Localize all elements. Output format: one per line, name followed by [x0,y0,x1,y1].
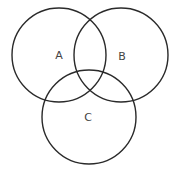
set-b-label: B [118,50,126,63]
set-a-label: A [55,49,63,62]
set-c-label: C [84,111,92,124]
venn-diagram: A B C [0,0,180,176]
